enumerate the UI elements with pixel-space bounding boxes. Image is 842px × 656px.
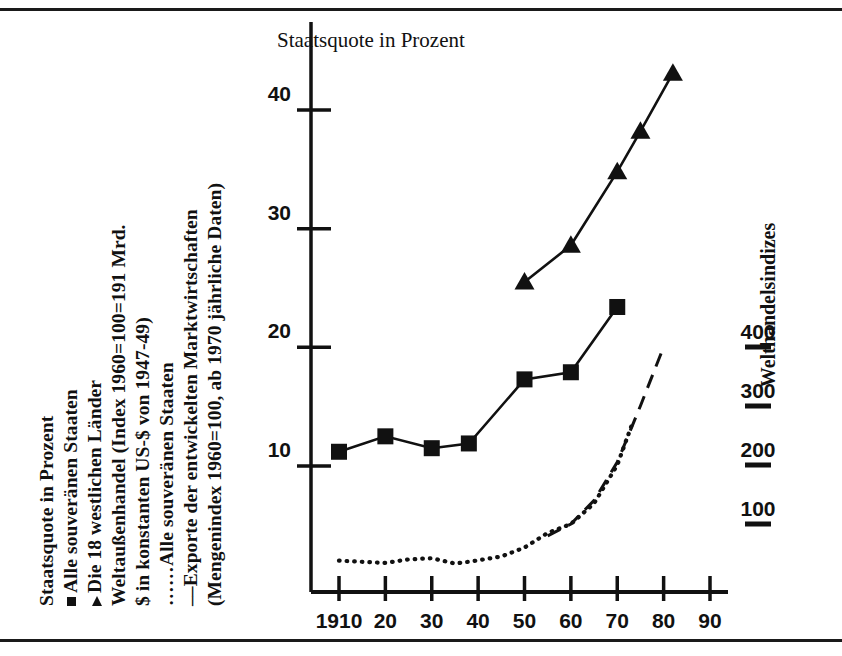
y2-tick-label: 100 [740, 497, 775, 520]
series-0-square-marker [424, 440, 440, 456]
y-tick-label: 30 [268, 201, 291, 224]
chart-plot: Staatsquote in Prozent Welthandelsindize… [0, 0, 842, 656]
x-tick-label: 90 [698, 609, 721, 632]
x-tick-label: 1910 [316, 609, 363, 632]
series-1-triangle-marker [630, 121, 650, 139]
y-tick-label: 10 [268, 438, 291, 461]
series-0-square-marker [377, 428, 393, 444]
x-tick-label: 50 [513, 609, 536, 632]
right-axis-label: Welthandelsindizes [757, 223, 779, 388]
series-1-triangle-marker [561, 235, 581, 253]
data-series [331, 63, 683, 563]
series-1-triangle-marker [663, 63, 683, 81]
series-0-square-marker [609, 299, 625, 315]
x-tick-label: 30 [420, 609, 443, 632]
figure-root: Staatsquote in Prozent Alle souveränen S… [0, 0, 842, 656]
page-title: Staatsquote in Prozent [277, 28, 465, 52]
series-0-square-marker [331, 444, 347, 460]
y2-tick-label: 300 [740, 379, 775, 402]
axes [297, 22, 771, 601]
x-tick-label: 20 [374, 609, 397, 632]
series-0-square-marker [517, 371, 533, 387]
series-line-2 [339, 427, 631, 564]
series-1-triangle-marker [515, 272, 535, 290]
x-tick-label: 80 [652, 609, 675, 632]
series-0-square-marker [461, 435, 477, 451]
series-0-square-marker [563, 364, 579, 380]
series-line-1 [525, 73, 673, 282]
series-1-triangle-marker [607, 162, 627, 180]
y2-tick-label: 400 [740, 320, 775, 343]
tick-labels: 1020304019102030405060708090100200300400 [268, 82, 776, 632]
y-tick-label: 40 [268, 82, 291, 105]
x-tick-label: 60 [559, 609, 582, 632]
y-tick-label: 20 [268, 319, 291, 342]
x-tick-label: 70 [606, 609, 629, 632]
x-tick-label: 40 [466, 609, 489, 632]
y2-tick-label: 200 [740, 438, 775, 461]
